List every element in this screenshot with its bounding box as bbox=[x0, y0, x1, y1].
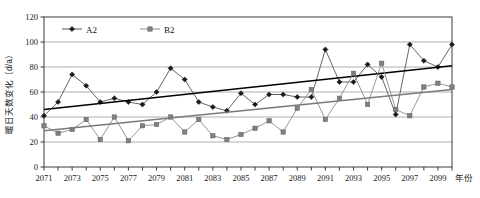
data-point-B2-2092 bbox=[337, 96, 341, 100]
data-point-B2-2087 bbox=[267, 119, 271, 123]
data-point-B2-2100 bbox=[450, 85, 454, 89]
data-point-B2-2097 bbox=[408, 114, 412, 118]
data-point-B2-2093 bbox=[351, 71, 355, 75]
xtick-label-2091: 2091 bbox=[317, 173, 334, 183]
xtick-label-2095: 2095 bbox=[373, 173, 390, 183]
line-chart: 0204060801001202071207320752077207920812… bbox=[0, 0, 480, 198]
xtick-label-2083: 2083 bbox=[204, 173, 221, 183]
data-point-B2-2096 bbox=[394, 107, 398, 111]
xtick-label-2077: 2077 bbox=[120, 173, 137, 183]
data-point-B2-2074 bbox=[84, 117, 88, 121]
data-point-B2-2095 bbox=[379, 61, 383, 65]
data-point-B2-2075 bbox=[98, 137, 102, 141]
data-point-B2-2077 bbox=[126, 139, 130, 143]
data-point-B2-2094 bbox=[365, 102, 369, 106]
data-point-B2-2079 bbox=[154, 122, 158, 126]
xtick-label-2079: 2079 bbox=[148, 173, 165, 183]
legend-square-icon bbox=[148, 27, 152, 31]
ytick-label-40: 40 bbox=[30, 112, 39, 122]
data-point-B2-2071 bbox=[42, 124, 46, 128]
data-point-B2-2091 bbox=[323, 117, 327, 121]
data-point-B2-2081 bbox=[182, 130, 186, 134]
data-point-B2-2099 bbox=[436, 81, 440, 85]
ytick-label-100: 100 bbox=[25, 37, 38, 47]
data-point-B2-2090 bbox=[309, 87, 313, 91]
legend-label-A2: A2 bbox=[86, 25, 97, 35]
xtick-label-2085: 2085 bbox=[232, 173, 249, 183]
data-point-B2-2082 bbox=[197, 117, 201, 121]
xtick-label-2093: 2093 bbox=[345, 173, 362, 183]
data-point-B2-2084 bbox=[225, 137, 229, 141]
data-point-B2-2076 bbox=[112, 115, 116, 119]
data-point-B2-2085 bbox=[239, 132, 243, 136]
xtick-label-2099: 2099 bbox=[429, 173, 446, 183]
data-point-B2-2089 bbox=[295, 106, 299, 110]
ytick-label-120: 120 bbox=[25, 12, 38, 22]
y-axis-title: 暖日天数变化（d/a） bbox=[4, 50, 14, 134]
xtick-label-2097: 2097 bbox=[401, 173, 418, 183]
ytick-label-0: 0 bbox=[34, 162, 38, 172]
data-point-B2-2083 bbox=[211, 134, 215, 138]
data-point-B2-2088 bbox=[281, 130, 285, 134]
data-point-B2-2072 bbox=[56, 131, 60, 135]
x-axis-title: 年份 bbox=[455, 173, 473, 183]
ytick-label-80: 80 bbox=[30, 62, 39, 72]
xtick-label-2089: 2089 bbox=[289, 173, 306, 183]
xtick-label-2081: 2081 bbox=[176, 173, 193, 183]
data-point-B2-2086 bbox=[253, 126, 257, 130]
data-point-B2-2098 bbox=[422, 85, 426, 89]
xtick-label-2075: 2075 bbox=[92, 173, 109, 183]
xtick-label-2073: 2073 bbox=[64, 173, 81, 183]
ytick-label-60: 60 bbox=[30, 87, 39, 97]
legend-label-B2: B2 bbox=[164, 25, 175, 35]
xtick-label-2087: 2087 bbox=[261, 173, 278, 183]
chart-container: 0204060801001202071207320752077207920812… bbox=[0, 0, 480, 198]
xtick-label-2071: 2071 bbox=[36, 173, 53, 183]
data-point-B2-2078 bbox=[140, 124, 144, 128]
ytick-label-20: 20 bbox=[30, 137, 39, 147]
